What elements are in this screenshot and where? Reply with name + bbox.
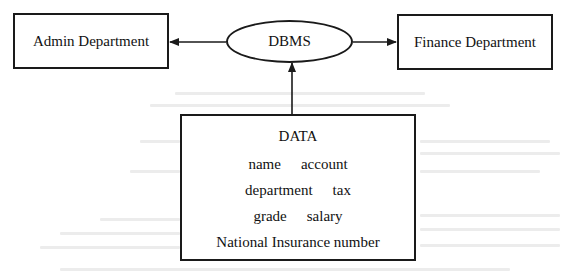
dbms-node: DBMS (226, 20, 353, 63)
data-title: DATA (182, 128, 414, 145)
finance-department-label: Finance Department (414, 34, 536, 51)
admin-department-label: Admin Department (33, 33, 149, 50)
field-tax: tax (333, 182, 351, 198)
data-field-row-4: National Insurance number (182, 234, 414, 251)
field-grade: grade (253, 208, 286, 224)
dbms-label: DBMS (268, 33, 311, 50)
admin-department-node: Admin Department (13, 13, 169, 69)
field-national-insurance-number: National Insurance number (216, 234, 379, 250)
data-field-row-2: departmenttax (182, 182, 414, 199)
data-field-row-3: gradesalary (182, 208, 414, 225)
field-account: account (301, 156, 348, 172)
field-name: name (248, 156, 280, 172)
field-department: department (245, 182, 312, 198)
finance-department-node: Finance Department (397, 14, 553, 70)
field-salary: salary (307, 208, 343, 224)
data-field-row-1: nameaccount (182, 156, 414, 173)
data-node: DATA nameaccount departmenttax gradesala… (180, 114, 416, 261)
